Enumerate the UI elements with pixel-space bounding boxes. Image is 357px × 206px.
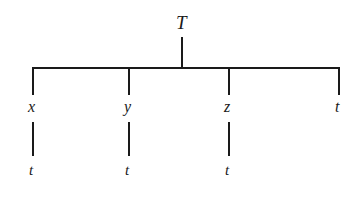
node-label-t-right: t [335, 99, 339, 115]
tree-diagram: T x y z t t t t [0, 0, 357, 206]
node-label-z: z [224, 99, 230, 115]
node-label-leaf-t-3: t [225, 163, 229, 178]
node-label-leaf-t-1: t [29, 163, 33, 178]
node-label-x: x [28, 99, 35, 115]
node-label-leaf-t-2: t [125, 163, 129, 178]
node-label-root: T [176, 13, 187, 32]
node-label-y: y [124, 99, 131, 115]
